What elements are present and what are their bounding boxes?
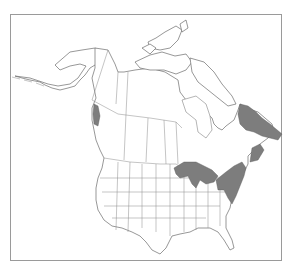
mainland-north-america (92, 48, 274, 254)
alaska-landmass (15, 48, 105, 90)
range-map (0, 0, 289, 266)
